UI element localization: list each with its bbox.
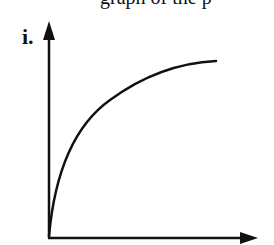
x-axis-arrow-icon	[240, 232, 258, 244]
saturation-curve	[49, 61, 216, 236]
y-axis-arrow-icon	[43, 21, 55, 40]
graph	[0, 0, 274, 245]
